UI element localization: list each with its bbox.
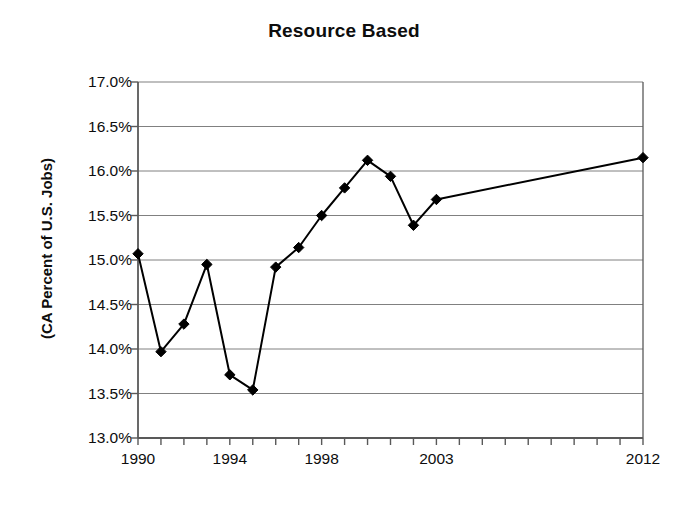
data-point-marker (225, 370, 235, 380)
data-point-marker (133, 249, 143, 259)
data-point-markers (133, 152, 648, 395)
chart-figure: Resource Based (CA Percent of U.S. Jobs)… (0, 0, 688, 507)
data-line (138, 158, 643, 390)
x-tick-label: 1998 (304, 450, 338, 468)
x-tick-label: 1994 (213, 450, 247, 468)
x-axis-ticks (138, 438, 643, 445)
plot-svg (0, 0, 688, 507)
plot-area (0, 0, 688, 507)
x-tick-label: 1990 (121, 450, 155, 468)
gridlines (138, 82, 643, 394)
x-tick-label: 2003 (419, 450, 453, 468)
x-tick-label: 2012 (626, 450, 660, 468)
data-point-marker (202, 259, 212, 269)
data-point-marker (638, 152, 648, 162)
series-line (138, 158, 643, 390)
y-axis-ticks (131, 82, 138, 438)
